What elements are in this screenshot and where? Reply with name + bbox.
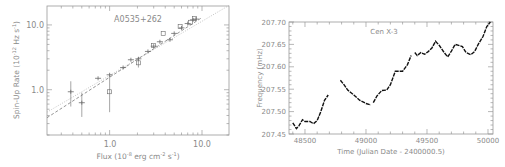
left-ytick-10: 10.0 <box>26 21 44 30</box>
left-y-axis-label: Spin-Up Rate (10-12 Hz s-1) <box>11 21 21 119</box>
right-chart: Cen X-3 48500 49000 49500 50000 207.45 2… <box>256 19 499 157</box>
left-plot-frame <box>47 6 229 135</box>
left-chart: A0535+262 1.0 10.0 10.0 1.0 Flux (10-8 e… <box>11 5 229 161</box>
left-ytick-1: 1.0 <box>31 86 44 95</box>
left-x-axis-label: Flux (10-8 erg cm-2 s-1) <box>96 151 179 161</box>
figure: A0535+262 1.0 10.0 10.0 1.0 Flux (10-8 e… <box>0 0 505 167</box>
right-ytick-label: 207.55 <box>262 86 287 94</box>
left-xtick-1: 1.0 <box>104 140 117 149</box>
right-xtick-label: 49000 <box>355 137 377 145</box>
right-x-axis-label: Time (Julian Date - 2400000.5) <box>336 148 445 156</box>
right-chart-title: Cen X-3 <box>370 28 397 36</box>
square-marker <box>161 31 165 35</box>
curve-segment <box>340 80 371 105</box>
left-data-points <box>68 17 199 117</box>
right-x-tick-labels: 48500 49000 49500 50000 <box>294 137 499 145</box>
right-axis-ticks <box>289 22 493 134</box>
right-ytick-label: 207.60 <box>262 63 287 71</box>
left-chart-title: A0535+262 <box>114 15 162 24</box>
right-xtick-label: 49500 <box>416 137 438 145</box>
right-y-axis-label: Frequency (mHz) <box>256 48 264 108</box>
right-ytick-label: 207.45 <box>262 131 287 139</box>
curve-segment <box>293 95 328 129</box>
left-xtick-10: 10.0 <box>193 140 211 149</box>
curve-segment <box>415 22 491 57</box>
right-xtick-label: 48500 <box>294 137 316 145</box>
right-y-tick-labels: 207.45 207.50 207.55 207.60 207.65 207.7… <box>262 19 287 139</box>
right-ytick-label: 207.50 <box>262 108 287 116</box>
curve-segment <box>373 56 411 103</box>
right-xtick-label: 50000 <box>477 137 499 145</box>
right-ytick-label: 207.70 <box>262 19 287 27</box>
right-frequency-curve <box>293 22 491 129</box>
right-plot-frame <box>289 22 493 134</box>
right-ytick-label: 207.65 <box>262 41 287 49</box>
left-axis-ticks <box>47 6 229 135</box>
